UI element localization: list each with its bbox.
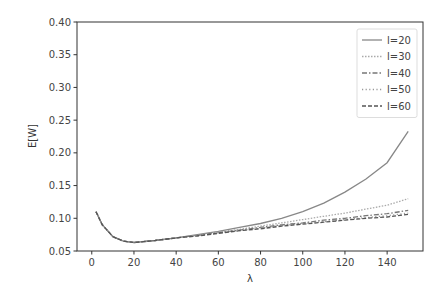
y-tick-label: 0.15 <box>49 180 71 191</box>
series-group <box>96 131 408 242</box>
y-axis-ticks: 0.050.100.150.200.250.300.350.40 <box>49 17 77 257</box>
x-tick-label: 20 <box>128 257 141 268</box>
y-tick-label: 0.05 <box>49 246 71 257</box>
x-tick-label: 100 <box>293 257 312 268</box>
x-tick-label: 80 <box>254 257 267 268</box>
series-line-l-30 <box>96 199 408 243</box>
line-chart: 0.050.100.150.200.250.300.350.40 0204060… <box>0 0 443 290</box>
y-tick-label: 0.25 <box>49 115 71 126</box>
series-line-l-20 <box>96 131 408 242</box>
series-line-l-40 <box>96 210 408 242</box>
x-tick-label: 140 <box>378 257 397 268</box>
legend: l=20l=30l=40l=50l=60 <box>357 29 417 118</box>
legend-label: l=60 <box>387 101 411 112</box>
y-tick-label: 0.20 <box>49 147 71 158</box>
x-tick-label: 120 <box>335 257 354 268</box>
x-axis-ticks: 020406080100120140 <box>89 251 397 268</box>
x-tick-label: 40 <box>170 257 183 268</box>
legend-label: l=20 <box>387 35 411 46</box>
y-tick-label: 0.30 <box>49 82 71 93</box>
y-axis-label: E[W] <box>27 124 38 148</box>
x-axis-label: λ <box>247 273 253 284</box>
y-tick-label: 0.10 <box>49 213 71 224</box>
legend-label: l=50 <box>387 84 411 95</box>
x-tick-label: 60 <box>212 257 225 268</box>
y-tick-label: 0.40 <box>49 17 71 28</box>
y-tick-label: 0.35 <box>49 49 71 60</box>
legend-label: l=30 <box>387 51 411 62</box>
x-tick-label: 0 <box>89 257 95 268</box>
legend-label: l=40 <box>387 68 411 79</box>
